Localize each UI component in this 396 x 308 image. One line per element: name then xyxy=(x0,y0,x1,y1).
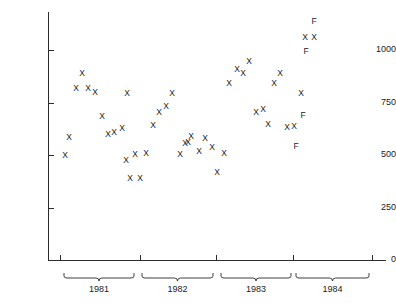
x-axis-tick xyxy=(216,255,217,261)
forecast-point-marker: F xyxy=(293,141,298,150)
data-point-marker: X xyxy=(132,150,138,159)
year-label: 1982 xyxy=(141,285,214,294)
data-point-marker: X xyxy=(150,120,156,129)
x-axis-year-group: 1984 xyxy=(295,272,370,302)
x-axis-tick xyxy=(372,255,373,261)
year-label: 1981 xyxy=(63,285,135,294)
y-axis-tick xyxy=(48,103,54,104)
data-point-marker: X xyxy=(221,149,227,158)
data-point-marker: X xyxy=(302,33,308,42)
forecast-point-marker: F xyxy=(303,47,308,56)
data-point-marker: X xyxy=(202,134,208,143)
year-brace-icon xyxy=(141,272,214,283)
data-point-marker: X xyxy=(277,69,283,78)
data-point-marker: X xyxy=(73,84,79,93)
data-point-marker: X xyxy=(127,174,133,183)
data-point-marker: X xyxy=(85,84,91,93)
data-point-marker: X xyxy=(260,105,266,114)
y-axis-tick-label: 250 xyxy=(352,203,396,212)
y-axis-tick-label: 500 xyxy=(352,150,396,159)
data-point-marker: X xyxy=(311,33,317,42)
data-point-marker: X xyxy=(177,150,183,159)
x-axis-year-group: 1981 xyxy=(63,272,135,302)
data-point-marker: X xyxy=(123,156,129,165)
y-axis-tick-label: 1000 xyxy=(352,45,396,54)
year-brace-icon xyxy=(63,272,135,283)
year-label: 1983 xyxy=(220,285,292,294)
data-point-marker: X xyxy=(169,89,175,98)
forecast-point-marker: F xyxy=(300,111,305,120)
data-point-marker: X xyxy=(163,101,169,110)
data-point-marker: X xyxy=(298,89,304,98)
data-point-marker: X xyxy=(214,168,220,177)
data-point-marker: X xyxy=(99,112,105,121)
x-axis-line xyxy=(48,260,386,261)
year-label: 1984 xyxy=(295,285,370,294)
data-point-marker: X xyxy=(105,130,111,139)
data-point-marker: X xyxy=(209,142,215,151)
y-axis-tick xyxy=(48,155,54,156)
data-point-marker: X xyxy=(253,108,259,117)
data-point-marker: X xyxy=(271,78,277,87)
data-point-marker: X xyxy=(62,151,68,160)
data-point-marker: X xyxy=(92,88,98,97)
x-axis-year-group: 1982 xyxy=(141,272,214,302)
y-axis-tick-label: 750 xyxy=(352,98,396,107)
data-point-marker: X xyxy=(234,65,240,74)
scatter-chart: Monthly sales (millions of dollars) 0250… xyxy=(0,0,396,308)
year-brace-icon xyxy=(295,272,370,283)
x-axis-tick xyxy=(140,255,141,261)
data-point-marker: X xyxy=(119,123,125,132)
x-axis-tick xyxy=(293,255,294,261)
data-point-marker: X xyxy=(137,174,143,183)
data-point-marker: X xyxy=(265,119,271,128)
data-point-marker: X xyxy=(196,147,202,156)
data-point-marker: X xyxy=(156,108,162,117)
data-point-marker: X xyxy=(240,69,246,78)
data-point-marker: X xyxy=(246,56,252,65)
y-axis-tick xyxy=(48,260,54,261)
y-axis-tick xyxy=(48,208,54,209)
data-point-marker: X xyxy=(124,89,130,98)
data-point-marker: X xyxy=(291,121,297,130)
forecast-point-marker: F xyxy=(311,16,316,25)
data-point-marker: X xyxy=(111,128,117,137)
data-point-marker: X xyxy=(284,122,290,131)
data-point-marker: X xyxy=(66,133,72,142)
y-axis-tick xyxy=(48,50,54,51)
data-point-marker: X xyxy=(226,78,232,87)
data-point-marker: X xyxy=(188,132,194,141)
x-axis-tick xyxy=(60,255,61,261)
year-brace-icon xyxy=(220,272,292,283)
data-point-marker: X xyxy=(79,69,85,78)
data-point-marker: X xyxy=(143,149,149,158)
x-axis-year-group: 1983 xyxy=(220,272,292,302)
y-axis-tick-label: 0 xyxy=(352,255,396,264)
